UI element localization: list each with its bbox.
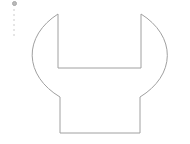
shape-svg-layer	[0, 0, 190, 144]
guide-handle-dot-icon[interactable]	[12, 1, 17, 6]
notched-ellipse-shape-path[interactable]	[32, 14, 167, 133]
shape-canvas[interactable]: Shape Canvas Vector shape drawing canvas…	[0, 0, 190, 144]
